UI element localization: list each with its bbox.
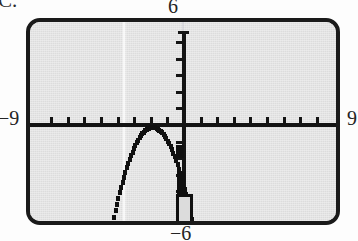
x-tick [316, 117, 319, 123]
curve-pixel [118, 190, 122, 195]
x-tick [133, 117, 136, 123]
curve-pixel [115, 202, 119, 207]
window-xmax-label: 9 [347, 107, 357, 130]
x-tick [200, 117, 203, 123]
curve-pixel [122, 175, 126, 180]
y-tick [176, 58, 183, 61]
problem-label: C. [0, 0, 17, 13]
curve-pixel [123, 170, 127, 175]
calculator-screen [26, 18, 340, 225]
y-tick [176, 41, 183, 44]
y-tick [176, 141, 183, 144]
x-tick [233, 117, 236, 123]
curve-pixel [119, 185, 123, 190]
x-tick [50, 117, 53, 123]
x-tick [117, 117, 120, 123]
curve-pixel [121, 180, 125, 185]
y-axis-cap [178, 31, 189, 34]
curve-blob-hollow [176, 194, 193, 225]
curve-blob-upper [176, 145, 184, 158]
x-tick [83, 117, 86, 123]
x-tick [100, 117, 103, 123]
screen-fill [30, 22, 336, 221]
curve-pixel [116, 196, 120, 201]
scan-fold-artifact [122, 22, 126, 221]
curve-pixel [112, 215, 116, 220]
x-tick [67, 117, 70, 123]
y-tick [176, 91, 183, 94]
y-tick [176, 107, 183, 110]
window-ymax-label: 6 [168, 0, 178, 18]
y-tick [176, 74, 183, 77]
figure-root: C. 6 −9 9 −6 [0, 0, 358, 241]
curve-pixel [114, 208, 118, 213]
x-tick [150, 117, 153, 123]
x-tick [299, 117, 302, 123]
x-tick [283, 117, 286, 123]
curve-blob-lower [177, 172, 185, 194]
window-xmin-label: −9 [0, 107, 19, 130]
x-tick [216, 117, 219, 123]
x-tick [266, 117, 269, 123]
x-tick [166, 117, 169, 123]
x-tick [249, 117, 252, 123]
